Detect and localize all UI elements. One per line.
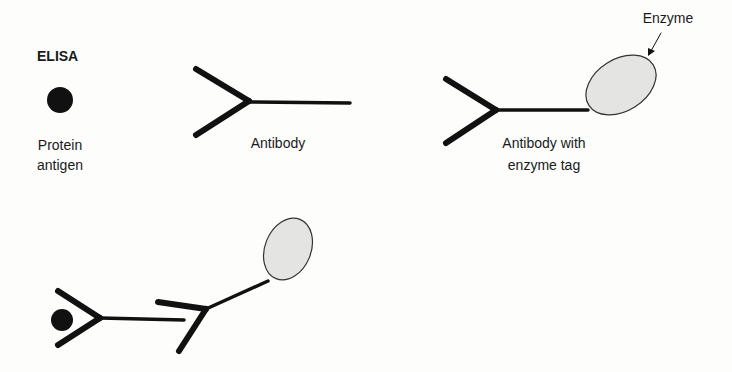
- elisa-diagram: ELISA Protein antigen Antibody Antibody …: [0, 0, 732, 372]
- enzyme-label: Enzyme: [636, 8, 700, 28]
- antibody-with-enzyme-shape: [446, 33, 667, 143]
- protein-label-line2: antigen: [30, 155, 90, 175]
- diagram-title: ELISA: [37, 48, 78, 64]
- elisa-complex-shape: [51, 211, 321, 351]
- antibody-enzyme-label-line1: Antibody with: [484, 133, 604, 153]
- antibody-shape: [196, 69, 350, 135]
- antibody-enzyme-label-line2: enzyme tag: [484, 155, 604, 175]
- protein-label-line1: Protein: [30, 135, 90, 155]
- antibody-label: Antibody: [238, 133, 318, 153]
- enzyme-ellipse: [575, 43, 667, 127]
- protein-antigen-dot: [47, 87, 73, 113]
- diagram-graphics: [0, 0, 732, 372]
